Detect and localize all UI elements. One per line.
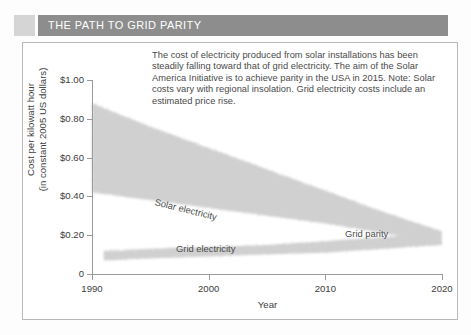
y-tick <box>87 196 92 197</box>
x-tick <box>92 275 93 280</box>
y-axis-title: Cost per kilowatt hour (in constant 2005… <box>25 50 48 210</box>
y-axis-title-line2: (in constant 2005 US dollars) <box>36 68 47 192</box>
x-tick <box>442 275 443 280</box>
header-swatch <box>14 15 35 36</box>
x-tick <box>325 275 326 280</box>
x-tick-label: 1990 <box>69 283 115 294</box>
y-tick <box>87 119 92 120</box>
y-tick <box>87 235 92 236</box>
figure-root: THE PATH TO GRID PARITY The cost of elec… <box>0 0 471 335</box>
x-tick <box>209 275 210 280</box>
x-axis-line <box>92 274 443 275</box>
plot-area <box>92 80 442 274</box>
y-tick <box>87 158 92 159</box>
x-axis-title: Year <box>92 299 443 310</box>
band-grid-electricity <box>104 233 442 260</box>
y-axis-line <box>92 80 93 275</box>
y-tick-label: $0.20 <box>38 229 84 240</box>
x-tick-label: 2010 <box>302 283 348 294</box>
y-tick-label: 0 <box>38 268 84 279</box>
band-solar-electricity <box>92 103 442 243</box>
page-title: THE PATH TO GRID PARITY <box>48 19 202 31</box>
y-tick <box>87 80 92 81</box>
bands-svg <box>92 80 442 274</box>
x-tick-label: 2020 <box>419 283 465 294</box>
y-axis-title-line1: Cost per kilowatt hour <box>25 83 36 176</box>
annotation-grid-electricity: Grid electricity <box>176 243 235 254</box>
annotation-grid-parity: Grid parity <box>345 228 388 239</box>
x-tick-label: 2000 <box>186 283 232 294</box>
